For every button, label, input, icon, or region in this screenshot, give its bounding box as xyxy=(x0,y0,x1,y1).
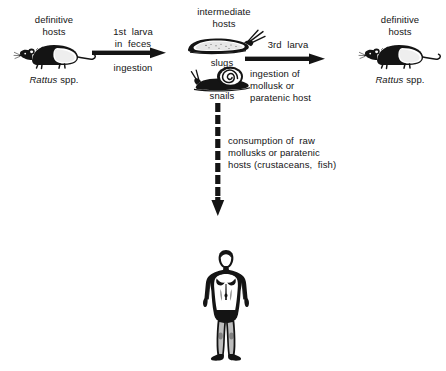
definitive-host-right-species: Rattus spp. xyxy=(362,74,438,86)
arrow-center-to-right xyxy=(245,53,325,65)
definitive-host-left-label-line2: hosts xyxy=(42,26,65,37)
arrow-human-label-line3: hosts (crustaceans, fish) xyxy=(228,159,336,170)
arrow-left-label-below: ingestion xyxy=(102,62,164,74)
intermediate-hosts-label: intermediatehosts xyxy=(181,6,267,30)
arrow-right-label-above-line1: 3rd larva xyxy=(268,39,309,50)
arrow-left-label-below-line1: ingestion xyxy=(114,62,153,73)
arrow-right-label-below-line3: paratenic host xyxy=(250,92,311,103)
arrow-right-label-below-line2: mollusk or xyxy=(250,80,294,91)
rat-illustration-left xyxy=(12,38,98,70)
arrow-center-to-human xyxy=(211,103,225,216)
definitive-host-right-label-line2: hosts xyxy=(388,26,411,37)
species-name-roman-left: spp. xyxy=(57,74,78,85)
definitive-host-left-label-line1: definitive xyxy=(35,14,74,25)
arrow-left-to-center xyxy=(92,47,166,59)
arrow-human-label-line2: mollusks or paratenic xyxy=(228,147,320,158)
arrow-right-label-above: 3rd larva xyxy=(252,39,324,51)
arrow-human-label: consumption of rawmollusks or paratenich… xyxy=(228,135,348,171)
definitive-host-left-species: Rattus spp. xyxy=(16,74,92,86)
human-illustration xyxy=(194,248,258,364)
snails-label: snails xyxy=(191,90,253,102)
life-cycle-diagram: definitivehosts xyxy=(0,0,446,371)
arrow-left-label-above-line1: 1st larva xyxy=(113,26,153,37)
definitive-host-right-label-line1: definitive xyxy=(381,14,420,25)
intermediate-hosts-label-line1: intermediate xyxy=(197,6,250,17)
rat-illustration-right xyxy=(357,38,443,70)
arrow-human-label-line1: consumption of raw xyxy=(228,135,315,146)
species-name-italic-left: Rattus xyxy=(29,74,57,85)
species-name-italic-right: Rattus xyxy=(375,74,403,85)
arrow-right-label-below: ingestion ofmollusk orparatenic host xyxy=(250,68,338,104)
species-name-roman-right: spp. xyxy=(403,74,424,85)
definitive-host-right-label: definitivehosts xyxy=(364,14,436,38)
definitive-host-left-label: definitivehosts xyxy=(18,14,90,38)
arrow-right-label-below-line1: ingestion of xyxy=(250,68,300,79)
